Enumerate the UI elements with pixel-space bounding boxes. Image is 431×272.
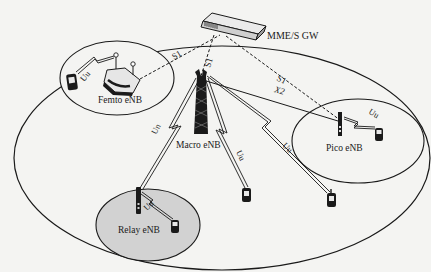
pico-ue-handset-icon (375, 128, 383, 141)
relay-antenna-icon (136, 187, 141, 214)
gateway-label: MME/S GW (267, 30, 319, 41)
macro-label: Macro eNB (176, 140, 221, 150)
relay-ue-handset-icon (171, 220, 179, 233)
ue-handset-icon-1 (242, 188, 251, 202)
network-diagram: MME/S GW S1 S1 S1 X2 Macro eNB Un Uu (0, 0, 431, 272)
femto-label: Femto eNB (98, 95, 142, 105)
pico-antenna-icon (338, 112, 342, 136)
pico-label: Pico eNB (326, 143, 363, 153)
relay-label: Relay eNB (118, 225, 160, 235)
